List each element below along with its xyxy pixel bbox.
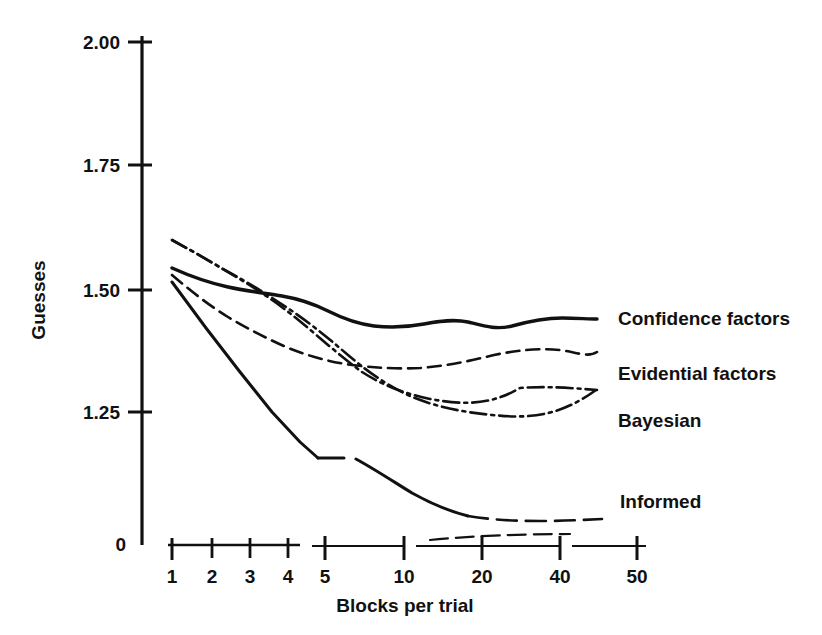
chart-figure: 2.00 1.75 1.50 1.25 0 1 2 3 4 5 10 20 40…	[0, 0, 822, 635]
y-tick-label-150: 1.50	[83, 280, 120, 301]
x-axis-title: Blocks per trial	[336, 595, 473, 616]
series-line-informed-tail	[468, 516, 602, 521]
y-tick-label-200: 2.00	[83, 32, 120, 53]
x-tick-label-40: 40	[549, 566, 570, 587]
series-line-informed-steep	[172, 282, 318, 458]
y-tick-label-175: 1.75	[83, 155, 120, 176]
x-tick-label-5: 5	[320, 566, 331, 587]
x-tick-label-10: 10	[393, 566, 414, 587]
x-tick-label-20: 20	[471, 566, 492, 587]
series-label-bayesian: Bayesian	[618, 410, 701, 431]
y-tick-label-125: 1.25	[83, 402, 120, 423]
chart-plot-area: 2.00 1.75 1.50 1.25 0 1 2 3 4 5 10 20 40…	[0, 0, 822, 635]
y-axis-title: Guesses	[28, 260, 49, 339]
x-tick-label-4: 4	[283, 566, 294, 587]
series-label-confidence-factors: Confidence factors	[618, 308, 790, 329]
series-label-informed: Informed	[620, 491, 701, 512]
y-tick-label-0: 0	[115, 534, 126, 555]
x-tick-label-50: 50	[626, 566, 647, 587]
x-tick-label-2: 2	[207, 566, 218, 587]
x-tick-label-3: 3	[245, 566, 256, 587]
series-line-informed-baseline	[430, 534, 570, 540]
series-line-informed-bend	[356, 459, 468, 516]
x-tick-label-1: 1	[167, 566, 178, 587]
series-label-evidential-factors: Evidential factors	[618, 363, 776, 384]
